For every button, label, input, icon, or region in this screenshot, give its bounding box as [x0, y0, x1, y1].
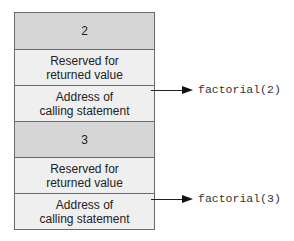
frame-2-address-cell: Address of calling statement — [15, 193, 154, 229]
frame-2-parameter-value: 3 — [81, 133, 88, 147]
frame-1-arrow — [151, 90, 191, 91]
arrowhead-icon — [182, 86, 193, 94]
frame-2-call-label: factorial(3) — [198, 192, 281, 205]
frame-1-address-cell: Address of calling statement — [15, 85, 154, 121]
activation-record-stack: 2 Reserved for returned value Address of… — [14, 12, 155, 230]
frame-2-parameter-cell: 3 — [15, 121, 154, 157]
frame-1-parameter-cell: 2 — [15, 13, 154, 49]
frame-2-reserved-label: Reserved for returned value — [46, 162, 123, 190]
frame-2-arrow — [151, 199, 191, 200]
frame-1-parameter-value: 2 — [81, 24, 88, 38]
frame-2-address-label: Address of calling statement — [39, 198, 129, 226]
frame-1-call-label: factorial(2) — [198, 83, 281, 96]
frame-1-reserved-cell: Reserved for returned value — [15, 49, 154, 85]
frame-1-address-label: Address of calling statement — [39, 90, 129, 118]
arrowhead-icon — [182, 195, 193, 203]
frame-2-reserved-cell: Reserved for returned value — [15, 157, 154, 193]
frame-1-reserved-label: Reserved for returned value — [46, 54, 123, 82]
